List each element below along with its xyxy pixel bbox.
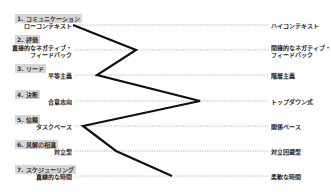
scale-left-label: 合意志向: [48, 98, 72, 105]
scale-left-label: 平等主義: [48, 72, 72, 79]
scale-category: 4. 決断: [15, 90, 40, 99]
scale-right-label: 対立回避型: [271, 148, 301, 155]
scale-right-label: 関係ベース: [271, 123, 301, 130]
scale-left-label: ローコンテキスト: [24, 22, 72, 29]
scale-right-label: トップダウン式: [271, 98, 313, 105]
scale-left-label: 直接的なネガティブ・フィードバック: [12, 44, 72, 58]
scale-left-label: 直線的な時間: [36, 173, 72, 180]
scale-category: 3. リード: [15, 64, 46, 73]
scale-category: 2. 評価: [15, 35, 40, 44]
scale-left-label: タスクベース: [36, 123, 72, 130]
scale-right-label: 柔軟な時間: [271, 173, 301, 180]
scale-right-label: ハイコンテキスト: [271, 22, 319, 29]
profile-line: [73, 25, 200, 176]
scale-right-label: 間接的なネガティブ・フィードバック: [271, 44, 331, 58]
scale-lines: [75, 25, 268, 176]
scale-category: 6. 見解の相違: [15, 140, 58, 149]
scale-left-label: 対立型: [54, 148, 72, 155]
scale-right-label: 階層主義: [271, 72, 295, 79]
